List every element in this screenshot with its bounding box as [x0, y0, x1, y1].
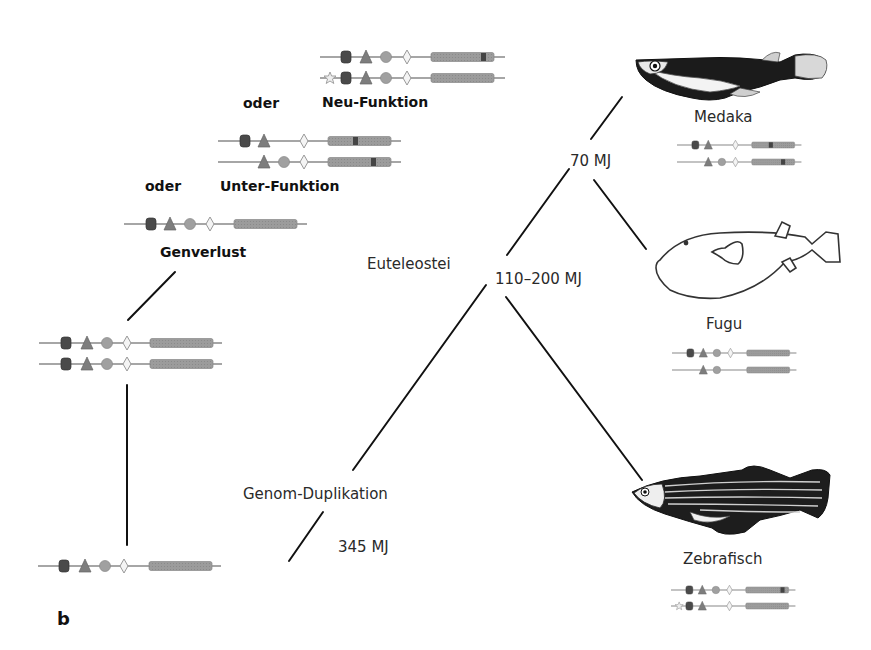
- zebrafish-icon: [632, 466, 830, 534]
- sub-function-label: Unter-Funktion: [220, 178, 339, 194]
- species-label-medaka: Medaka: [694, 108, 753, 126]
- species-label-fugu: Fugu: [706, 315, 742, 333]
- event-label-genome-duplication: Genom-Duplikation: [243, 485, 388, 503]
- connector-or-2: oder: [145, 178, 181, 194]
- species-label-zebrafish: Zebrafisch: [683, 550, 762, 568]
- node-time-euteleostei: 110–200 MJ: [495, 270, 582, 288]
- pufferfish-icon: [656, 222, 840, 298]
- connector-or-1: oder: [243, 95, 279, 111]
- node-time-duplication: 345 MJ: [338, 538, 389, 556]
- gene-loss-label: Genverlust: [160, 244, 246, 260]
- clade-label-euteleostei: Euteleostei: [367, 255, 451, 273]
- panel-letter: b: [57, 608, 70, 629]
- new-function-label: Neu-Funktion: [322, 94, 428, 110]
- node-time-medaka-fugu: 70 MJ: [570, 152, 611, 170]
- medaka-fish-icon: [636, 52, 827, 100]
